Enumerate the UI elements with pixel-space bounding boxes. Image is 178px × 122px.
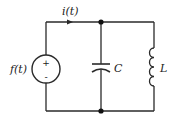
- current-label: i(t): [62, 5, 79, 18]
- source-minus-sign: -: [44, 72, 47, 82]
- voltage-source: + -: [32, 55, 60, 83]
- current-arrow-icon: [67, 20, 73, 25]
- capacitor-label: C: [114, 62, 123, 75]
- source-plus-sign: +: [42, 58, 50, 68]
- circuit-diagram: i(t) + - f(t) C L: [0, 0, 178, 122]
- source-label: f(t): [9, 63, 27, 76]
- junction-dot-top: [98, 19, 103, 24]
- junction-dot-bottom: [98, 108, 103, 113]
- inductor-label: L: [159, 62, 167, 75]
- inductor-coil-icon: [150, 48, 155, 86]
